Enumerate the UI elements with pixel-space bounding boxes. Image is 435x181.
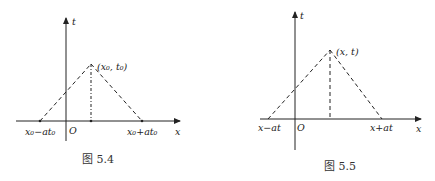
right-base-label: x₀+at₀ xyxy=(127,126,158,137)
apex-label: (x, t) xyxy=(336,46,359,57)
figure-5-4: t x O (x₀, t₀) x₀−at₀ x₀+at₀ 图 5.4 xyxy=(16,16,181,166)
origin-label: O xyxy=(69,125,77,136)
right-characteristic-line xyxy=(91,64,142,121)
apex-label: (x₀, t₀) xyxy=(97,61,128,72)
apex-foot-point xyxy=(90,120,93,123)
left-base-point xyxy=(39,120,42,123)
t-axis-label: t xyxy=(72,16,76,27)
right-characteristic-line xyxy=(330,50,382,119)
right-base-point xyxy=(141,120,144,123)
t-axis-label: t xyxy=(300,10,304,21)
x-axis-label: x xyxy=(175,126,181,137)
figure-caption: 图 5.4 xyxy=(82,153,114,166)
x-axis-label: x xyxy=(416,123,422,134)
origin-label: O xyxy=(297,122,305,133)
figure-5-5: t x O (x, t) x−at x+at 图 5.5 xyxy=(258,10,422,173)
left-base-label: x₀−at₀ xyxy=(25,126,56,137)
right-base-label: x+at xyxy=(370,122,393,133)
left-characteristic-line xyxy=(268,50,330,119)
left-base-label: x−at xyxy=(258,122,281,133)
diagram-canvas: t x O (x₀, t₀) x₀−at₀ x₀+at₀ 图 5.4 t x O… xyxy=(0,0,435,181)
figure-caption: 图 5.5 xyxy=(324,160,356,173)
